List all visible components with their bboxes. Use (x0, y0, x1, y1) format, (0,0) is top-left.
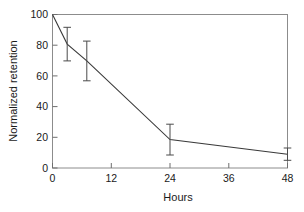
x-tick-label-0: 0 (50, 172, 56, 184)
x-axis-title: Hours (163, 191, 193, 203)
y-tick-label-20: 20 (36, 131, 48, 143)
y-axis-title: Normalized retention (7, 40, 19, 142)
y-tick-label-100: 100 (30, 8, 48, 20)
x-tick-label-12: 12 (105, 172, 117, 184)
error-bar-7h (83, 41, 91, 81)
x-tick-label-48: 48 (282, 172, 294, 184)
error-bar-3h (63, 27, 71, 61)
chart-figure: 0 20 40 60 80 100 0 12 24 36 48 Hours No… (0, 0, 304, 212)
y-tick-label-0: 0 (42, 162, 48, 174)
y-tick-label-40: 40 (36, 100, 48, 112)
x-tick-label-36: 36 (223, 172, 235, 184)
y-axis-ticks (53, 15, 58, 169)
y-tick-label-80: 80 (36, 39, 48, 51)
x-axis-ticks (53, 163, 288, 168)
y-tick-label-60: 60 (36, 70, 48, 82)
line-chart: 0 20 40 60 80 100 0 12 24 36 48 Hours No… (0, 0, 304, 212)
x-tick-label-24: 24 (164, 172, 176, 184)
y-axis-tick-labels: 0 20 40 60 80 100 (30, 8, 48, 174)
x-axis-tick-labels: 0 12 24 36 48 (50, 172, 294, 184)
